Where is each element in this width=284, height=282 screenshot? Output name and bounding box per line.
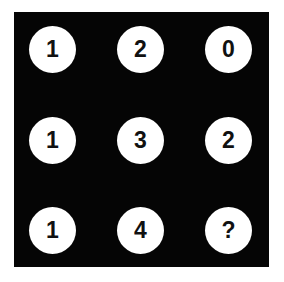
cell-r1-c1: 1 — [29, 26, 76, 73]
cell-r1-c3: 0 — [205, 26, 252, 73]
puzzle-board: 1 2 0 1 3 2 1 4 ? — [14, 12, 269, 267]
cell-r2-c2: 3 — [117, 117, 164, 164]
cell-r3-c1: 1 — [29, 207, 76, 254]
cell-r3-c3-unknown: ? — [205, 207, 252, 254]
cell-r2-c1: 1 — [29, 117, 76, 164]
cell-r3-c2: 4 — [117, 207, 164, 254]
cell-r1-c2: 2 — [117, 26, 164, 73]
cell-r2-c3: 2 — [205, 117, 252, 164]
